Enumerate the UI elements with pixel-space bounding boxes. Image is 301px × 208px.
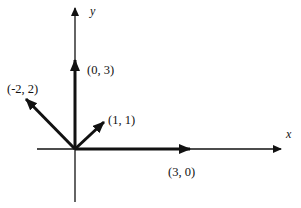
x-axis-label: x: [286, 128, 291, 140]
coordinate-plane: [0, 0, 301, 208]
vector-label-1-1: (1, 1): [108, 114, 135, 127]
vector-neg2-2: [26, 99, 75, 149]
vector-label-neg2-2: (-2, 2): [7, 83, 38, 96]
y-axis-label: y: [90, 5, 95, 17]
vector-label-0-3: (0, 3): [87, 64, 114, 77]
vector-1-1: [75, 122, 104, 149]
vector-label-3-0: (3, 0): [168, 166, 195, 179]
